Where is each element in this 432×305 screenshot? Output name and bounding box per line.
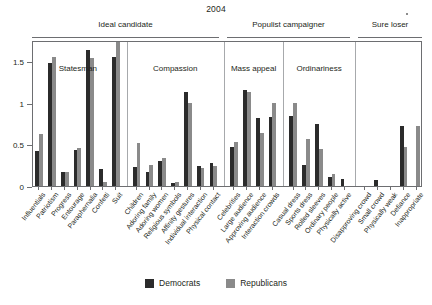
supergroup-label-2: Sure loser (358, 20, 422, 29)
x-tick-1 (51, 187, 52, 190)
legend-entry-republicans[interactable]: Republicans (226, 278, 287, 288)
chart-title: 2004 (0, 4, 432, 14)
bar-republicans-19 (306, 139, 310, 186)
x-tick-16 (259, 187, 260, 190)
x-tick-11 (187, 187, 188, 190)
bar-republicans-13 (213, 166, 217, 186)
bar-republicans-9 (162, 158, 166, 186)
x-tick-8 (149, 187, 150, 190)
x-tick-25 (390, 187, 391, 190)
x-tick-17 (272, 187, 273, 190)
bar-republicans-18 (293, 103, 297, 186)
plot-area: StatesmanCompassionMass appealOrdinarine… (32, 41, 422, 187)
supergroup-ideal-candidate: Ideal candidate (32, 20, 219, 38)
x-tick-24 (377, 187, 378, 190)
supergroup-label-1: Populist campaigner (227, 20, 350, 29)
panel-divider-2 (224, 42, 225, 187)
bar-republicans-4 (90, 58, 94, 186)
chart-figure: 2004 Ideal candidatePopulist campaignerS… (0, 0, 432, 305)
x-tick-19 (305, 187, 306, 190)
x-tick-21 (331, 187, 332, 190)
x-tick-9 (161, 187, 162, 190)
bar-democrats-22 (341, 179, 345, 186)
x-axis-labels: InfluentialsPatriotismProgressEntourageP… (0, 191, 432, 269)
bar-republicans-0 (39, 134, 43, 186)
x-tick-15 (246, 187, 247, 190)
bar-republicans-16 (260, 133, 264, 186)
x-tick-5 (102, 187, 103, 190)
supergroup-rule-1 (227, 37, 350, 38)
bar-republicans-5 (103, 182, 107, 186)
supergroup-label-0: Ideal candidate (32, 20, 219, 29)
supergroup-populist-campaigner: Populist campaigner (227, 20, 350, 38)
bar-republicans-12 (201, 168, 205, 186)
y-tick-label-3: 1.5 (13, 57, 24, 66)
legend-swatch-icon-republicans (226, 279, 235, 288)
panel-label-statesman: Statesman (59, 64, 97, 73)
x-tick-3 (77, 187, 78, 190)
bar-republicans-11 (188, 103, 192, 186)
x-tick-0 (38, 187, 39, 190)
bar-republicans-1 (52, 57, 56, 186)
panel-label-ordinariness: Ordinariness (296, 64, 341, 73)
bar-republicans-10 (175, 182, 179, 186)
x-tick-13 (213, 187, 214, 190)
legend-label-democrats: Democrats (159, 278, 200, 288)
x-tick-12 (200, 187, 201, 190)
legend-entry-democrats[interactable]: Democrats (145, 278, 200, 288)
legend-swatch-icon-democrats (145, 279, 154, 288)
bar-republicans-21 (332, 174, 336, 186)
x-tick-20 (318, 187, 319, 190)
x-tick-18 (293, 187, 294, 190)
bar-republicans-2 (65, 172, 69, 186)
bar-republicans-7 (137, 143, 141, 186)
x-tick-2 (64, 187, 65, 190)
bar-republicans-26 (404, 147, 408, 186)
x-tick-4 (90, 187, 91, 190)
x-tick-14 (233, 187, 234, 190)
supergroup-sure-loser: Sure loser (358, 20, 422, 38)
chart-legend: DemocratsRepublicans (0, 278, 432, 288)
bar-republicans-8 (149, 165, 153, 186)
y-axis: 00.511.5 (0, 41, 32, 187)
panel-divider-3 (283, 42, 284, 187)
supergroup-rule-0 (32, 37, 219, 38)
corner-speck (406, 13, 408, 15)
panel-label-mass-appeal: Mass appeal (231, 64, 276, 73)
x-tick-10 (174, 187, 175, 190)
bar-republicans-27 (416, 126, 420, 186)
panel-label-compassion: Compassion (153, 64, 197, 73)
y-tick-label-1: 0.5 (13, 141, 24, 150)
y-tick-label-2: 1 (20, 99, 24, 108)
bar-republicans-15 (247, 92, 251, 186)
x-tick-27 (416, 187, 417, 190)
x-tick-6 (115, 187, 116, 190)
bar-democrats-24 (374, 180, 378, 186)
x-tick-7 (136, 187, 137, 190)
bar-republicans-6 (116, 41, 120, 186)
supergroup-rule-2 (358, 37, 422, 38)
x-tick-26 (403, 187, 404, 190)
legend-label-republicans: Republicans (240, 278, 287, 288)
bar-republicans-14 (234, 142, 238, 186)
bar-republicans-17 (272, 103, 276, 186)
x-label-6: Suit (111, 191, 124, 205)
bar-republicans-20 (319, 149, 323, 186)
bar-republicans-3 (77, 148, 81, 186)
x-tick-22 (344, 187, 345, 190)
panel-divider-1 (127, 42, 128, 187)
x-tick-23 (364, 187, 365, 190)
panel-divider-4 (355, 42, 356, 187)
